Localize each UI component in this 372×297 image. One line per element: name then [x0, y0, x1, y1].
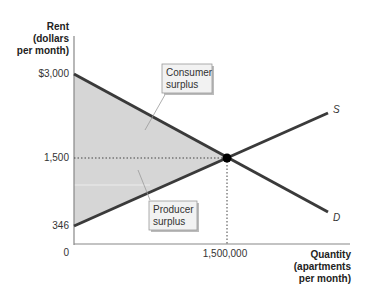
demand-label: D — [333, 212, 340, 223]
y-axis-title-line3: per month) — [17, 45, 69, 56]
y-tick-0: 0 — [63, 247, 69, 258]
consumer-surplus-label-line1: Consumer — [166, 67, 213, 78]
y-tick-1500: 1,500 — [44, 152, 69, 163]
producer-surplus-label-line2: surplus — [153, 216, 185, 227]
x-tick-1500000: 1,500,000 — [203, 248, 248, 259]
producer-surplus-label-line1: Producer — [153, 204, 194, 215]
supply-label: S — [333, 104, 340, 115]
y-axis-title-line2: (dollars — [33, 33, 70, 44]
x-axis-title-line2: (apartments — [294, 261, 352, 272]
surplus-chart: S D Rent (dollars per month) $3,000 1,50… — [0, 0, 372, 297]
y-axis-title-line1: Rent — [47, 21, 70, 32]
equilibrium-point — [223, 154, 232, 163]
y-tick-346: 346 — [52, 220, 69, 231]
x-axis-title-line1: Quantity — [310, 249, 351, 260]
y-tick-3000: $3,000 — [38, 68, 69, 79]
consumer-surplus-label-line2: surplus — [166, 79, 198, 90]
x-axis-title-line3: per month) — [299, 273, 351, 284]
